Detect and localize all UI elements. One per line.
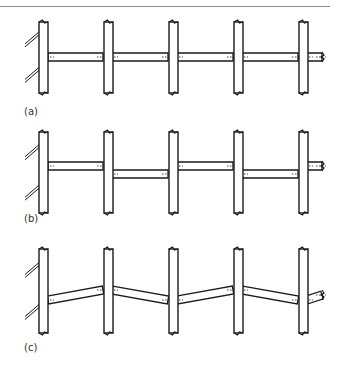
post xyxy=(169,22,178,93)
post xyxy=(169,132,178,213)
beam xyxy=(241,286,298,304)
beam xyxy=(177,53,233,61)
wall-brace-icon xyxy=(25,185,39,200)
post xyxy=(104,249,113,333)
beam xyxy=(47,286,103,304)
post xyxy=(39,132,48,213)
wall-brace-icon xyxy=(25,305,39,320)
post xyxy=(104,132,113,213)
panel-c xyxy=(25,247,326,335)
panel-b xyxy=(25,130,326,215)
post xyxy=(39,22,48,93)
beam xyxy=(112,53,168,61)
wall-brace-icon xyxy=(25,263,39,278)
wall-brace-icon xyxy=(25,32,39,47)
panel-label: (c) xyxy=(24,342,37,353)
panel-label: (b) xyxy=(24,213,38,224)
post xyxy=(234,22,243,93)
beam xyxy=(242,170,298,178)
wall-brace-icon xyxy=(25,67,39,82)
beam xyxy=(111,286,168,304)
post xyxy=(39,249,48,333)
panel-label: (a) xyxy=(24,106,38,117)
post xyxy=(234,249,243,333)
beam xyxy=(48,53,103,61)
post xyxy=(299,249,308,333)
post xyxy=(104,22,113,93)
beam xyxy=(48,162,103,170)
post xyxy=(299,22,308,93)
post xyxy=(299,132,308,213)
beam xyxy=(242,53,298,61)
post xyxy=(169,249,178,333)
post xyxy=(234,132,243,213)
beam xyxy=(176,286,233,304)
beam xyxy=(112,170,168,178)
beam xyxy=(177,162,233,170)
wall-brace-icon xyxy=(25,145,39,160)
panel-a xyxy=(25,20,326,95)
structural-diagram xyxy=(0,0,340,368)
